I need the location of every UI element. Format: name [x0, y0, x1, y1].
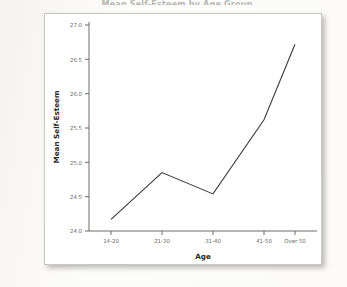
cut-off-chart-title: Mean Self-Esteem by Age Group	[72, 0, 282, 5]
y-tick-label: 27.0	[70, 22, 83, 28]
x-tick-label: 41-50	[256, 238, 272, 244]
x-tick-label: 14-20	[103, 238, 119, 244]
y-tick-label: 24.5	[70, 194, 82, 200]
y-tick-label: 24.0	[70, 228, 83, 234]
y-tick-label: 25.0	[70, 160, 83, 166]
scanned-page: Mean Self-Esteem by Age Group 27.0 26.5	[0, 0, 347, 287]
x-axis-tick-labels: 14-20 21-30 31-40 41-50 Over 50	[103, 238, 306, 244]
y-tick-label: 26.5	[70, 57, 82, 63]
y-axis-ticks	[85, 25, 89, 231]
y-axis-tick-labels: 27.0 26.5 26.0 25.5 25.0 24.5 24.0	[70, 22, 83, 234]
x-axis-ticks	[111, 231, 295, 235]
x-axis-title: Age	[195, 252, 211, 261]
x-tick-label: 31-40	[205, 238, 221, 244]
x-tick-label: 21-30	[154, 238, 170, 244]
x-tick-label: Over 50	[284, 238, 306, 244]
series-line-mean-self-esteem	[111, 44, 295, 219]
y-axis-title: Mean Self-Esteem	[52, 91, 61, 164]
chart-panel[interactable]: 27.0 26.5 26.0 25.5 25.0 24.5 24.0 14-20…	[44, 13, 322, 265]
y-tick-label: 25.5	[70, 125, 82, 131]
line-chart-plot: 27.0 26.5 26.0 25.5 25.0 24.5 24.0 14-20…	[45, 14, 323, 266]
y-tick-label: 26.0	[70, 91, 83, 97]
